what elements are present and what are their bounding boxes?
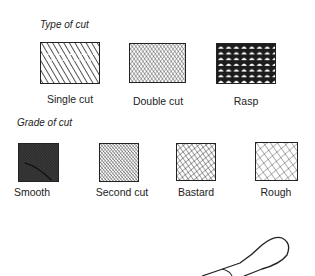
rough-pattern-icon — [256, 143, 297, 180]
grade-of-cut-heading: Grade of cut — [17, 117, 72, 128]
second-cut-label: Second cut — [82, 186, 162, 198]
single-cut-pattern-icon — [41, 43, 99, 83]
smooth-label: Smooth — [2, 186, 62, 198]
smooth-swatch — [18, 143, 59, 182]
file-handle-illustration — [200, 225, 315, 276]
second-cut-pattern-icon — [100, 144, 138, 181]
double-cut-swatch — [129, 43, 186, 83]
type-of-cut-heading: Type of cut — [40, 19, 89, 30]
bastard-swatch — [176, 143, 216, 181]
rough-swatch — [255, 142, 298, 181]
rasp-pattern-icon — [217, 44, 275, 83]
smooth-pattern-icon — [19, 144, 58, 181]
file-handle-icon — [200, 225, 315, 276]
rough-label: Rough — [246, 186, 306, 198]
rasp-swatch — [216, 43, 276, 84]
single-cut-label: Single cut — [30, 93, 110, 105]
bastard-pattern-icon — [177, 144, 215, 180]
bastard-label: Bastard — [166, 186, 226, 198]
single-cut-swatch — [40, 42, 100, 84]
rasp-label: Rasp — [206, 95, 286, 107]
double-cut-pattern-icon — [130, 44, 185, 82]
second-cut-swatch — [99, 143, 139, 182]
double-cut-label: Double cut — [118, 95, 198, 107]
